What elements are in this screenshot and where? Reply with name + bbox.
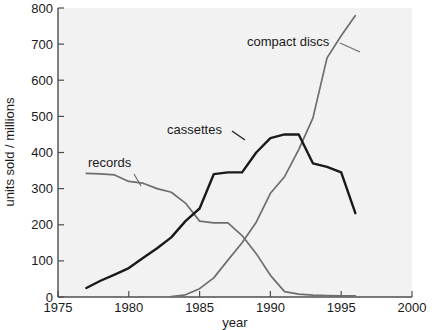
y-tick-label: 200	[31, 217, 53, 232]
y-tick-label: 600	[31, 73, 53, 88]
x-tick-label: 1980	[114, 300, 143, 315]
y-axis-tick-labels: 0 100 200 300 400 500 600 700 800	[31, 1, 53, 305]
x-tick-label: 2000	[398, 300, 427, 315]
x-tick-label: 1990	[256, 300, 285, 315]
x-tick-label: 1975	[44, 300, 73, 315]
y-tick-label: 800	[31, 1, 53, 16]
chart-container: 0 100 200 300 400 500 600 700 800 1975 1…	[0, 0, 446, 330]
y-axis-title: units sold / millions	[2, 97, 17, 207]
y-tick-label: 100	[31, 253, 53, 268]
y-tick-label: 700	[31, 37, 53, 52]
x-axis-tick-labels: 1975 1980 1985 1990 1995 2000	[44, 300, 427, 315]
y-tick-label: 500	[31, 109, 53, 124]
y-tick-label: 400	[31, 145, 53, 160]
compact-discs-label: compact discs	[247, 34, 330, 49]
line-chart: 0 100 200 300 400 500 600 700 800 1975 1…	[0, 0, 446, 330]
records-label: records	[88, 155, 132, 170]
y-tick-label: 300	[31, 181, 53, 196]
cassettes-label: cassettes	[167, 122, 222, 137]
x-tick-label: 1985	[185, 300, 214, 315]
x-tick-label: 1995	[327, 300, 356, 315]
x-axis-title: year	[222, 315, 248, 330]
